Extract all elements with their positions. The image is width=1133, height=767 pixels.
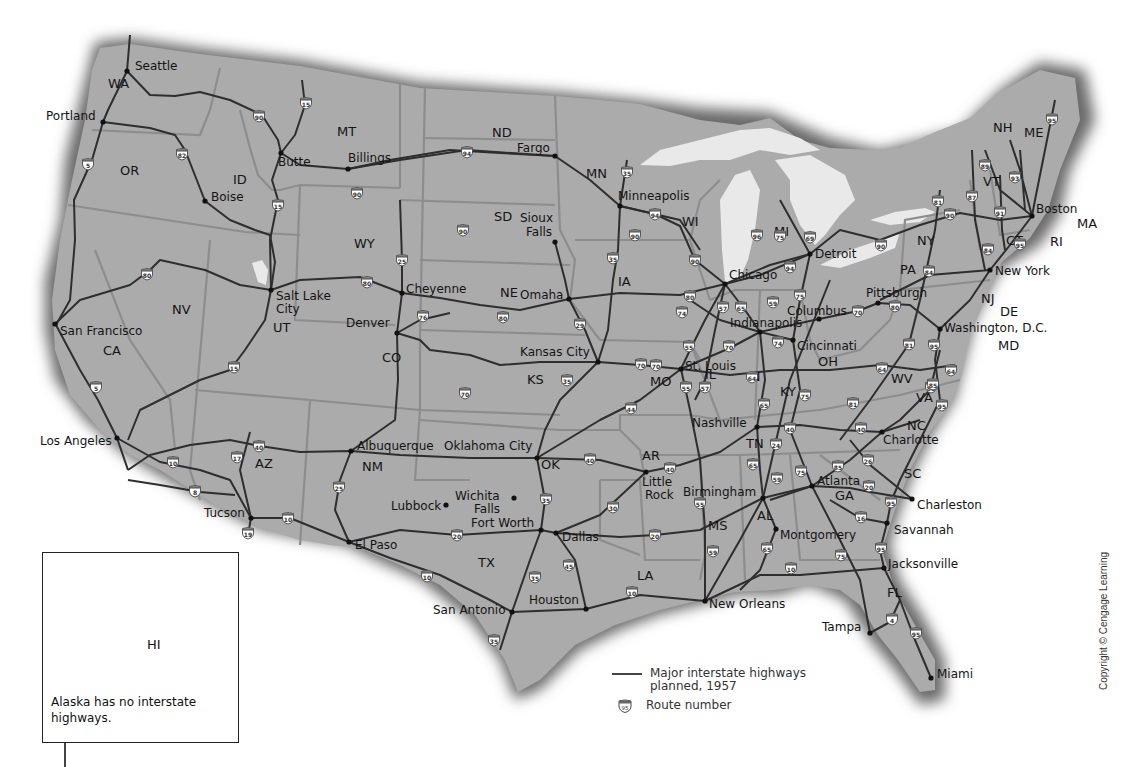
svg-text:74: 74 — [678, 310, 686, 317]
svg-text:15: 15 — [230, 365, 238, 372]
state-label-id: ID — [233, 172, 247, 187]
city-dot-icon — [875, 300, 880, 305]
route-shield-70-icon: 70 — [724, 341, 735, 353]
state-label-ia: IA — [618, 274, 631, 289]
svg-text:80: 80 — [891, 304, 899, 311]
route-shield-8-icon: 8 — [190, 486, 201, 498]
legend-route-text: Route number — [646, 699, 731, 712]
state-label-la: LA — [637, 568, 654, 583]
callout-leader-line — [64, 743, 66, 767]
route-shield-89-icon: 89 — [980, 160, 991, 172]
svg-text:16: 16 — [857, 515, 865, 522]
city-dot-icon — [538, 527, 543, 532]
svg-text:40: 40 — [857, 426, 865, 433]
route-shield-65-icon: 65 — [748, 459, 759, 471]
svg-text:40: 40 — [786, 426, 794, 433]
city-savannah: Savannah — [884, 520, 953, 537]
route-shield-26-icon: 26 — [863, 455, 874, 467]
svg-text:89: 89 — [981, 163, 989, 170]
svg-text:29: 29 — [576, 322, 584, 329]
route-shield-64-icon: 64 — [877, 363, 888, 375]
state-label-il: IL — [705, 367, 717, 382]
svg-text:75: 75 — [837, 553, 845, 560]
route-shield-20-icon: 20 — [650, 530, 661, 542]
city-el-paso: El Paso — [346, 538, 397, 552]
city-label-line2: Falls — [474, 502, 500, 516]
svg-text:20: 20 — [651, 533, 659, 540]
route-shield-76-icon: 76 — [418, 311, 429, 323]
city-label: Birmingham — [683, 485, 756, 499]
svg-text:64: 64 — [878, 366, 886, 373]
copyright-notice: Copyright © Cengage Learning — [1098, 552, 1109, 690]
route-shield-84-icon: 84 — [924, 266, 935, 278]
svg-text:65: 65 — [763, 546, 771, 553]
city-label: Charlotte — [883, 433, 939, 447]
route-shield-75-icon: 75 — [795, 290, 806, 302]
svg-text:59: 59 — [709, 549, 717, 556]
city-label: Tampa — [821, 620, 861, 634]
svg-text:35: 35 — [563, 378, 571, 385]
city-label: Lubbock — [391, 499, 441, 513]
route-shield-15-icon: 15 — [273, 200, 284, 212]
city-label: Boston — [1036, 202, 1077, 216]
city-label-line2: City — [276, 302, 300, 316]
route-shield-29-icon: 29 — [575, 319, 586, 331]
city-label: Billings — [348, 151, 391, 165]
legend-route-row: 95 Route number — [610, 699, 806, 713]
svg-text:90: 90 — [691, 258, 699, 265]
svg-text:40: 40 — [666, 466, 674, 473]
city-dot-icon — [114, 435, 119, 440]
svg-text:81: 81 — [934, 199, 942, 206]
route-shield-55-icon: 55 — [684, 341, 695, 353]
svg-text:95: 95 — [930, 343, 938, 350]
city-dot-icon — [443, 502, 448, 507]
svg-text:17: 17 — [233, 455, 241, 462]
state-label-al: AL — [757, 508, 774, 523]
state-label-nj: NJ — [981, 291, 995, 306]
route-shield-15-icon: 15 — [301, 98, 312, 110]
city-dot-icon — [552, 153, 557, 158]
svg-text:70: 70 — [854, 309, 862, 316]
svg-text:40: 40 — [586, 457, 594, 464]
route-shield-91-icon: 91 — [995, 207, 1006, 219]
city-label: Washington, D.C. — [944, 321, 1047, 335]
route-shield-90-icon: 90 — [630, 230, 641, 242]
city-label: Denver — [346, 316, 390, 330]
svg-text:80: 80 — [363, 280, 371, 287]
svg-text:90: 90 — [353, 191, 361, 198]
legend-highway-text: Major interstate highways planned, 1957 — [650, 667, 806, 693]
route-shield-57-icon: 57 — [700, 382, 711, 394]
city-los-angeles: Los Angeles — [40, 434, 120, 448]
city-label: Pittsburgh — [866, 286, 927, 300]
svg-text:20: 20 — [865, 484, 873, 491]
city-albuquerque: Albuquerque — [348, 439, 433, 454]
city-label: Kansas City — [520, 345, 590, 359]
svg-text:15: 15 — [302, 101, 310, 108]
highway-line-swatch — [612, 673, 642, 675]
city-label-line2: Rock — [645, 488, 674, 502]
svg-text:95: 95 — [622, 705, 629, 711]
svg-text:57: 57 — [719, 305, 727, 312]
svg-text:45: 45 — [565, 563, 573, 570]
route-shield-87-icon: 87 — [967, 191, 978, 203]
svg-text:90: 90 — [459, 228, 467, 235]
route-shield-64-icon: 64 — [946, 365, 957, 377]
city-label: El Paso — [355, 538, 397, 552]
svg-text:70: 70 — [637, 362, 645, 369]
svg-text:15: 15 — [274, 203, 282, 210]
route-shield-4-icon: 4 — [887, 614, 898, 626]
route-shield-40-icon: 40 — [856, 423, 867, 435]
svg-text:95: 95 — [1016, 242, 1024, 249]
route-shield-80-icon: 80 — [362, 277, 373, 289]
svg-text:65: 65 — [737, 305, 745, 312]
city-washington-d-c: Washington, D.C. — [937, 321, 1047, 335]
route-shield-5-icon: 5 — [91, 382, 102, 394]
svg-text:44: 44 — [627, 406, 635, 413]
city-dot-icon — [511, 495, 516, 500]
city-lubbock: Lubbock — [391, 499, 449, 513]
state-label-oh: OH — [818, 354, 838, 369]
route-shield-82-icon: 82 — [177, 149, 188, 161]
route-shield-75-icon: 75 — [775, 231, 786, 243]
state-label-ri: RI — [1050, 234, 1063, 249]
city-dot-icon — [702, 598, 707, 603]
